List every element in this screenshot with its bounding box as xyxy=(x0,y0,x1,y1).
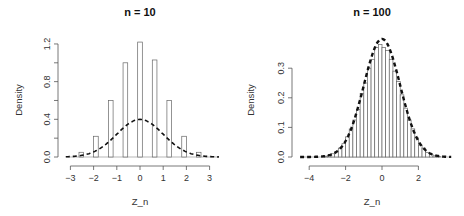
y-axis-label: Density xyxy=(245,84,256,116)
histogram-bar xyxy=(397,82,401,157)
svg-text:0.8: 0.8 xyxy=(42,75,52,88)
svg-text:1: 1 xyxy=(161,173,166,183)
svg-text:0.1: 0.1 xyxy=(276,121,286,134)
svg-text:−2: −2 xyxy=(88,173,98,183)
svg-text:0.3: 0.3 xyxy=(276,62,286,75)
x-axis-label: Z_n xyxy=(364,196,380,207)
svg-text:1.2: 1.2 xyxy=(42,38,52,51)
svg-text:3: 3 xyxy=(207,173,212,183)
histogram-bar xyxy=(152,60,157,157)
histogram-bar xyxy=(393,71,397,157)
histogram-bar xyxy=(371,59,375,157)
figure: n = 10 −3−2−10123 0.00.40.81.2 Z_n Densi… xyxy=(0,0,464,216)
histogram-bar xyxy=(138,42,143,157)
svg-text:2: 2 xyxy=(416,173,421,183)
svg-text:2: 2 xyxy=(184,173,189,183)
histogram-bar xyxy=(360,93,364,157)
svg-text:0.0: 0.0 xyxy=(42,151,52,164)
histogram-bar xyxy=(357,110,361,157)
histogram-bar xyxy=(108,100,113,157)
panel-n100: n = 100 −4−202 0.00.10.20.3 Z_n Density xyxy=(245,6,451,207)
panel-n10: n = 10 −3−2−10123 0.00.40.81.2 Z_n Densi… xyxy=(13,6,219,207)
histogram-bar xyxy=(367,68,371,157)
histogram-bar xyxy=(94,136,99,157)
svg-text:0: 0 xyxy=(137,173,142,183)
x-axis-label: Z_n xyxy=(132,196,148,207)
histogram-bar xyxy=(389,59,393,157)
svg-text:−3: −3 xyxy=(65,173,75,183)
y-axis: 0.00.40.81.2 xyxy=(42,38,58,164)
histogram-bars xyxy=(300,45,451,157)
histogram-bar xyxy=(338,148,342,157)
histogram-bar xyxy=(415,138,419,157)
histogram-bar xyxy=(353,120,357,157)
histogram-bars xyxy=(66,42,219,157)
svg-text:0.4: 0.4 xyxy=(42,113,52,126)
svg-text:0.2: 0.2 xyxy=(276,92,286,105)
histogram-bar xyxy=(349,129,353,157)
y-axis-label: Density xyxy=(13,84,24,116)
histogram-bar xyxy=(418,145,422,157)
histogram-bar xyxy=(382,47,386,157)
svg-text:0: 0 xyxy=(379,173,384,183)
x-axis: −4−202 xyxy=(304,166,421,183)
histogram-bar xyxy=(364,83,368,157)
histogram-bar xyxy=(375,47,379,157)
chart-title: n = 100 xyxy=(353,6,391,18)
histogram-bar xyxy=(386,50,390,157)
histogram-bar xyxy=(404,108,408,157)
x-axis: −3−2−10123 xyxy=(65,166,212,183)
svg-text:−4: −4 xyxy=(304,173,314,183)
histogram-bar xyxy=(182,136,187,157)
histogram-bar xyxy=(400,95,404,157)
histogram-bar xyxy=(378,45,382,157)
chart-title: n = 10 xyxy=(124,6,156,18)
svg-text:0.0: 0.0 xyxy=(276,151,286,164)
y-axis: 0.00.10.20.3 xyxy=(276,62,292,163)
histogram-bar xyxy=(123,63,128,157)
histogram-bar xyxy=(167,100,172,157)
svg-text:−2: −2 xyxy=(340,173,350,183)
svg-text:−1: −1 xyxy=(112,173,122,183)
